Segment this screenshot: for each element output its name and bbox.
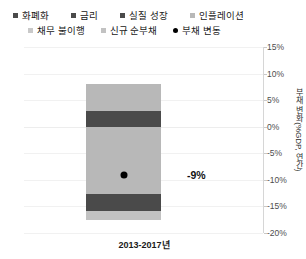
ytick-label-neg20: -20% xyxy=(267,228,287,238)
bar-segment-interest-rate[interactable] xyxy=(86,194,161,211)
bar-segment-new-net-debt[interactable] xyxy=(86,127,161,194)
ytick-label-0: 0% xyxy=(267,122,279,132)
legend-swatch-icon xyxy=(190,13,195,18)
legend-label: 금리 xyxy=(80,11,98,21)
legend-item-default[interactable]: 채무 불이행 xyxy=(28,26,85,36)
ytick-label-15: 15% xyxy=(267,42,284,52)
legend-row-1: 화폐화 금리 실질 성장 인플레이션 xyxy=(0,8,306,23)
gridline-neg20 xyxy=(24,233,263,234)
chart-legend: 화폐화 금리 실질 성장 인플레이션 채무 불이행 신규 순부채 xyxy=(0,8,306,38)
legend-label: 신규 순부채 xyxy=(110,26,158,36)
ytick-label-10: 10% xyxy=(267,69,284,79)
legend-item-monetization[interactable]: 화폐화 xyxy=(13,11,49,21)
stacked-bar[interactable] xyxy=(86,84,161,219)
legend-row-2: 채무 불이행 신규 순부채 부채 변동 xyxy=(0,23,306,38)
plot-area: -9% xyxy=(24,47,264,233)
legend-swatch-icon xyxy=(13,13,18,18)
legend-label: 부채 변동 xyxy=(182,26,221,36)
legend-label: 실질 성장 xyxy=(129,11,168,21)
legend-label: 화폐화 xyxy=(22,11,49,21)
legend-label: 인플레이션 xyxy=(199,11,244,21)
legend-swatch-icon xyxy=(101,28,106,33)
legend-item-interest-rate[interactable]: 금리 xyxy=(71,11,98,21)
legend-cutoff-row: ······················ xyxy=(0,0,306,7)
bar-segment-inflation[interactable] xyxy=(86,84,161,111)
bar-segment-real-growth[interactable] xyxy=(86,111,161,127)
ytick-label-neg10: -10% xyxy=(267,175,287,185)
legend-swatch-icon xyxy=(120,13,125,18)
gridline-10 xyxy=(24,74,263,75)
ytick-label-5: 5% xyxy=(267,95,279,105)
y-axis-title: 부채 변화(%GDP, 연간) xyxy=(286,88,302,171)
legend-item-new-net-debt[interactable]: 신규 순부채 xyxy=(101,26,158,36)
net-change-marker[interactable] xyxy=(120,171,127,178)
x-axis-label: 2013-2017년 xyxy=(24,238,264,251)
legend-cutoff-text: ······················ xyxy=(0,0,306,2)
ytick-label-neg15: -15% xyxy=(267,201,287,211)
legend-swatch-icon xyxy=(28,28,33,33)
net-change-label: -9% xyxy=(187,169,206,181)
legend-dot-icon xyxy=(173,28,178,33)
legend-swatch-icon xyxy=(71,13,76,18)
chart-figure: ······················ 화폐화 금리 실질 성장 인플레이… xyxy=(0,0,306,259)
ytick-label-neg5: -5% xyxy=(267,148,282,158)
bar-segment-default[interactable] xyxy=(86,211,161,220)
legend-label: 채무 불이행 xyxy=(37,26,85,36)
gridline-15 xyxy=(24,47,263,48)
legend-item-real-growth[interactable]: 실질 성장 xyxy=(120,11,168,21)
legend-item-debt-change[interactable]: 부채 변동 xyxy=(173,26,221,36)
legend-item-inflation[interactable]: 인플레이션 xyxy=(190,11,244,21)
